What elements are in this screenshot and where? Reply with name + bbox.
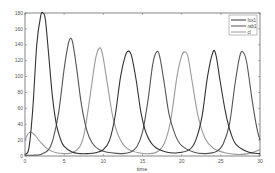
legend-label: rab1 [248,24,258,29]
y-tick-label: 120 [15,57,24,63]
x-tick-label: 15 [140,158,146,164]
y-tick-label: 80 [17,89,23,95]
legend-label: cl [248,30,251,35]
x-tick-label: 30 [257,158,263,164]
line-chart: 020406080100120140160180 051015202530 ti… [0,0,275,173]
y-tick-label: 100 [15,73,24,79]
x-axis-label: time [137,166,147,172]
x-tick-label: 25 [218,158,224,164]
legend-label: fox1 [248,18,257,23]
y-tick-label: 140 [15,41,24,47]
y-tick-label: 180 [15,10,24,16]
plot-background [25,13,260,156]
x-tick-label: 20 [179,158,185,164]
x-tick-label: 5 [63,158,66,164]
legend: fox1rab1cl [229,15,257,35]
x-tick-label: 0 [24,158,27,164]
x-tick-label: 10 [101,158,107,164]
y-tick-label: 40 [17,121,23,127]
y-tick-label: 20 [17,137,23,143]
y-tick-label: 160 [15,26,24,32]
y-tick-label: 60 [17,105,23,111]
